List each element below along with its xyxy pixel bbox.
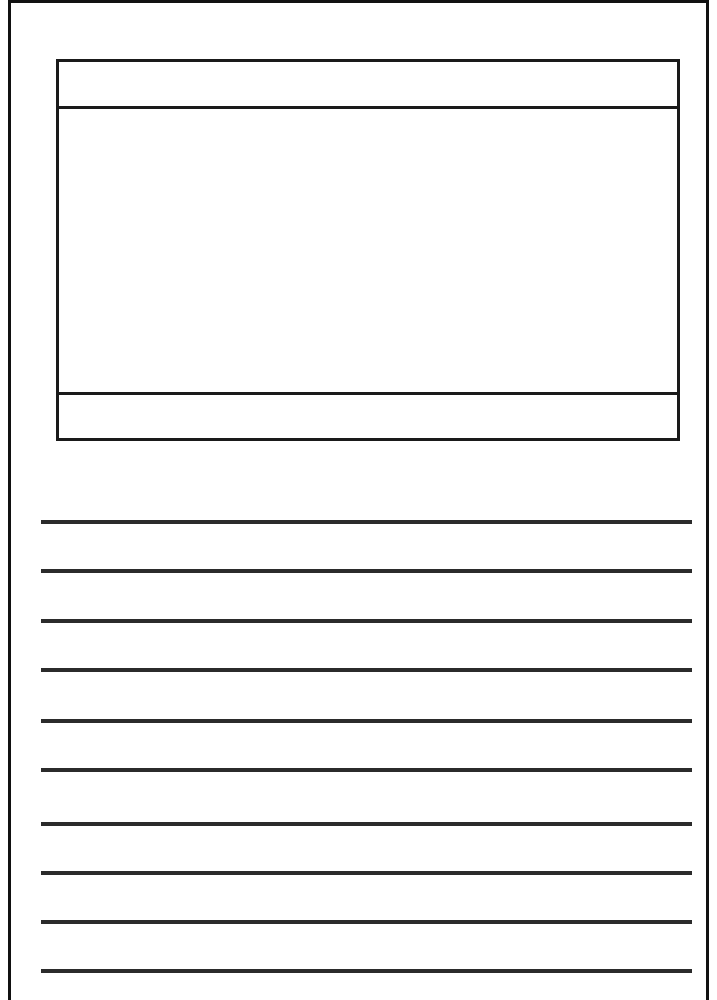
writing-line[interactable]: [41, 969, 692, 973]
title-text: [59, 62, 677, 86]
writing-line[interactable]: [41, 920, 692, 924]
caption-strip[interactable]: [59, 392, 677, 438]
writing-line[interactable]: [41, 619, 692, 623]
writing-line[interactable]: [41, 871, 692, 875]
writing-line[interactable]: [41, 520, 692, 524]
drawing-area[interactable]: [59, 109, 677, 395]
writing-line[interactable]: [41, 822, 692, 826]
drawing-text: [59, 109, 677, 133]
writing-line[interactable]: [41, 768, 692, 772]
caption-text: [59, 395, 677, 419]
writing-line[interactable]: [41, 569, 692, 573]
writing-line[interactable]: [41, 719, 692, 723]
picture-box: [56, 59, 680, 441]
writing-line[interactable]: [41, 668, 692, 672]
title-strip[interactable]: [59, 62, 677, 109]
